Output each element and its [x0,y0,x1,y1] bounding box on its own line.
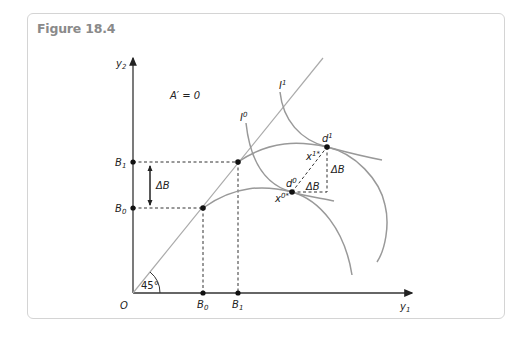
point-x-b1 [235,290,240,295]
point-diag-b1 [235,159,241,165]
delta-b-label-vertical: ΔB [330,164,345,175]
point-d1 [324,144,330,150]
point-label-x0: x0* [274,192,289,204]
y1-axis-label: y1 [399,301,410,314]
projection-lines [133,147,327,293]
y2-axis-label: y2 [115,58,127,71]
origin-label: O [120,300,128,311]
x-tick-b1: B1 [232,299,243,312]
x-tick-b0: B0 [197,299,209,312]
point-x-b0 [200,290,205,295]
point-label-x1: x1* [305,150,320,162]
y-tick-b1: B1 [115,157,126,170]
45-degree-line [133,58,323,293]
indifference-curve-I0 [246,123,334,201]
indifference-curve-I1 [280,92,382,160]
point-y-b0 [130,205,135,210]
angle-label: 45° [141,280,159,291]
delta-b-label-horizontal: ΔB [305,181,320,192]
economics-diagram: y2 y1 O A′ = 0 45° B1 B0 B0 B1 ΔB ΔB ΔB … [0,0,529,338]
point-d0 [289,189,295,195]
point-y-b1 [130,159,135,164]
y-tick-b0: B0 [115,203,127,216]
point-diag-b0 [200,205,206,211]
curve-label-i1: I1 [279,79,286,91]
condition-label: A′ = 0 [169,90,200,101]
points [130,144,329,295]
point-label-d1: d1 [322,132,333,144]
delta-b-label-left: ΔB [155,180,170,191]
curve-label-i0: I0 [240,111,248,123]
